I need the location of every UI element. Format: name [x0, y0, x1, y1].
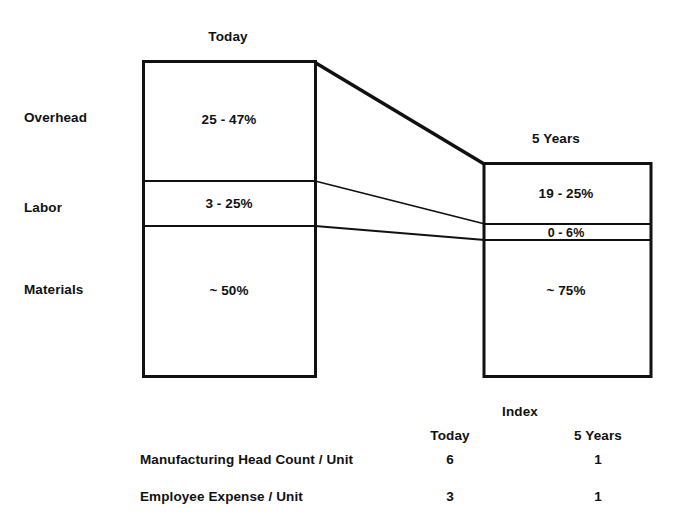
index-group-header: Index — [502, 404, 538, 419]
connector-labor-materials — [315, 226, 485, 240]
table-cell-employee-expense-five-years: 1 — [594, 489, 602, 504]
five-years-band-value-materials: ~ 75% — [546, 283, 585, 298]
today-column-outline — [144, 62, 316, 377]
cost-structure-figure: Today 5 Years Overhead Labor Materials 2… — [0, 0, 674, 532]
five-years-band-value-labor: 0 - 6% — [548, 226, 585, 240]
today-band-value-overhead: 25 - 47% — [202, 112, 257, 127]
table-column-header-five-years: 5 Years — [574, 428, 622, 443]
today-column-header: Today — [208, 29, 247, 44]
table-row-label-employee-expense: Employee Expense / Unit — [140, 489, 303, 504]
table-cell-head-count-today: 6 — [446, 452, 454, 467]
five-years-column-header: 5 Years — [532, 131, 580, 146]
today-band-value-labor: 3 - 25% — [205, 196, 252, 211]
top-connector-line — [315, 63, 485, 165]
table-cell-head-count-five-years: 1 — [594, 452, 602, 467]
row-label-materials: Materials — [24, 282, 83, 297]
row-label-labor: Labor — [24, 200, 62, 215]
row-label-overhead: Overhead — [24, 110, 87, 125]
table-cell-employee-expense-today: 3 — [446, 489, 454, 504]
five-years-band-value-overhead: 19 - 25% — [539, 186, 594, 201]
connector-overhead-labor — [315, 181, 485, 224]
table-row-label-head-count: Manufacturing Head Count / Unit — [140, 452, 353, 467]
today-band-value-materials: ~ 50% — [209, 283, 248, 298]
table-column-header-today: Today — [430, 428, 469, 443]
